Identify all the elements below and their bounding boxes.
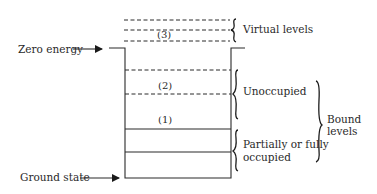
- well-outline: [109, 48, 245, 178]
- energy-level-diagram: (3) (2) (1) Zero energy Ground state: [0, 0, 377, 194]
- virtual-levels-label: Virtual levels: [242, 23, 313, 35]
- partially-occupied-label-line2: occupied: [243, 151, 291, 163]
- potential-well: [109, 48, 245, 178]
- ground-state-label: Ground state: [20, 171, 90, 183]
- ground-state-annotation: Ground state: [20, 171, 119, 183]
- occupied-levels: (1): [125, 114, 231, 152]
- bound-levels-label-line1: Bound: [327, 113, 362, 125]
- zero-energy-annotation: Zero energy: [18, 43, 102, 55]
- partially-occupied-label-line1: Partially or fully: [243, 138, 329, 150]
- level-marker-2: (2): [158, 80, 172, 91]
- unoccupied-brace-icon: [233, 70, 238, 119]
- level-marker-3: (3): [157, 29, 171, 40]
- right-labels: Virtual levels Unoccupied Partially or f…: [242, 23, 362, 163]
- virtual-levels: (3): [124, 20, 230, 41]
- unoccupied-levels: (2): [125, 70, 231, 94]
- unoccupied-label: Unoccupied: [243, 85, 307, 97]
- occupied-brace-icon: [233, 130, 238, 171]
- virtual-brace-icon: [231, 19, 236, 42]
- level-marker-1: (1): [158, 114, 172, 125]
- bound-levels-label-line2: levels: [327, 125, 357, 137]
